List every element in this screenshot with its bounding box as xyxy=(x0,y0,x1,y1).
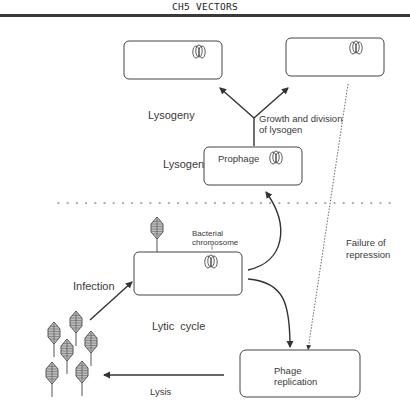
label-repression: repression xyxy=(346,249,390,260)
phage-icon xyxy=(76,361,88,396)
label-phage: Phage xyxy=(274,365,301,376)
lambda-lifecycle-diagram xyxy=(0,0,410,402)
phage-icon xyxy=(85,331,97,366)
infected-cell xyxy=(134,244,242,295)
label-lytic-cycle: Lytic cycle xyxy=(152,320,205,332)
label-lysogeny: Lysogeny xyxy=(148,109,195,121)
prophage-coil-icon xyxy=(350,41,362,54)
label-of-lysogen: of lysogen xyxy=(259,124,302,135)
daughter-cell-right xyxy=(286,38,384,76)
lytic-path-arrow xyxy=(248,279,290,347)
label-lysis: Lysis xyxy=(150,386,171,397)
phage-icon xyxy=(61,339,73,374)
prophage-coil-icon xyxy=(193,45,205,58)
daughter-cell-left xyxy=(124,41,222,79)
phage-icon xyxy=(48,322,60,357)
lysogenization-arrow xyxy=(248,192,281,270)
phage-icon xyxy=(70,311,82,346)
label-failure-of: Failure of xyxy=(346,237,386,248)
label-chromosome: chromosome xyxy=(192,238,238,247)
label-lysogen: Lysogen xyxy=(163,158,204,170)
label-prophage: Prophage xyxy=(218,153,259,164)
bacterial-chromosome-icon xyxy=(205,255,217,268)
released-phages xyxy=(46,311,97,397)
prophage-coil-icon xyxy=(270,151,282,164)
label-infection: Infection xyxy=(73,280,115,292)
label-growth-division: Growth and division xyxy=(259,113,342,124)
injecting-phage-icon xyxy=(151,217,163,252)
label-replication: replication xyxy=(274,376,317,387)
phage-icon xyxy=(46,362,58,397)
label-bacterial: Bacterial xyxy=(192,229,223,238)
